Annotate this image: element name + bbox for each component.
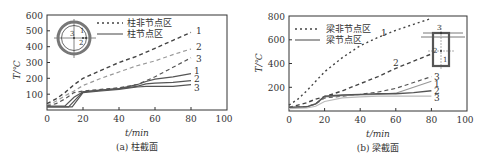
inset-label: 2 [433,47,437,55]
inset-label: 1 [443,56,447,64]
y-tick-label: 300 [26,58,43,68]
series-label: 3 [196,54,202,64]
y-tick-label: 200 [26,74,43,84]
y-axis: 100 200 300 400 500 600 [26,11,50,100]
x-tick-label: 40 [354,115,366,125]
chart-column-section: 100 200 300 400 500 600 T/℃ 0 20 40 60 8… [12,11,233,153]
legend: 梁非节点区 梁节点区 [295,23,371,45]
y-tick-label: 500 [26,26,43,36]
y-tick-label: 400 [268,59,285,69]
x-tick-label: 60 [390,115,402,125]
y-tick-label: 400 [26,42,43,52]
inset-label: 2 [79,39,83,47]
inset-label: 3 [437,24,441,32]
legend-label-solid: 柱节点区 [127,28,163,39]
x-tick-label: 80 [185,114,197,124]
x-tick-label: 0 [286,115,292,125]
chart-caption: (b) 梁截面 [357,142,400,153]
y-tick-label: 600 [26,11,43,21]
x-tick-label: 0 [44,114,50,124]
series-label: 2 [393,58,399,68]
x-tick-label: 100 [456,115,473,125]
figure: 100 200 300 400 500 600 T/℃ 0 20 40 60 8… [0,0,483,168]
legend: 柱非节点区 柱节点区 [97,17,172,39]
y-axis-label: T/℃ [12,60,22,80]
y-axis: 200 400 600 800 [268,12,292,93]
legend-label-dashed: 柱非节点区 [127,17,172,28]
x-tick-label: 100 [215,114,232,124]
x-tick-label: 60 [149,114,161,124]
inset-label: 1 [80,27,84,35]
x-axis-label: t/min [366,129,390,139]
x-tick-label: 40 [113,114,125,124]
chart-beam-section: 200 400 600 800 T/℃ 0 20 40 60 80 100 t/… [254,12,474,154]
series-label: 1 [381,28,387,38]
x-tick-label: 20 [77,114,89,124]
inset-label: 3 [70,30,74,38]
x-tick-label: 80 [426,115,438,125]
beam-section-inset: 3 2 1 [421,24,465,70]
x-axis-label: t/min [125,128,149,138]
series-end-labels: 1 2 3 1 2 3 [194,26,202,93]
y-tick-label: 800 [268,12,285,22]
y-tick-label: 200 [268,83,285,93]
y-axis-label: T/℃ [254,53,264,73]
y-tick-label: 600 [268,35,285,45]
legend-label-dashed: 梁非节点区 [326,23,371,34]
series-labels: 1 2 3 1 2 3 [381,28,440,103]
chart-caption: (a) 柱截面 [116,141,158,152]
series-label: 3 [194,83,200,93]
series-label: 1 [196,26,202,36]
circular-section-inset: 3 1 2 [54,19,96,58]
series-label: 3 [434,93,440,103]
y-tick-label: 100 [26,90,43,100]
chart-canvas: 100 200 300 400 500 600 T/℃ 0 20 40 60 8… [0,0,483,168]
series-lines [47,32,191,106]
x-tick-label: 20 [319,115,331,125]
legend-label-solid: 梁节点区 [326,34,362,45]
series-label: 2 [196,42,202,52]
